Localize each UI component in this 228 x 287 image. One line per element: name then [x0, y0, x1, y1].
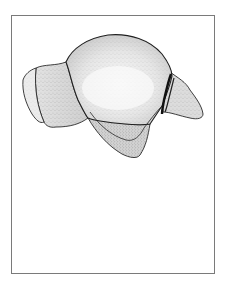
bone-illustration	[0, 0, 228, 287]
